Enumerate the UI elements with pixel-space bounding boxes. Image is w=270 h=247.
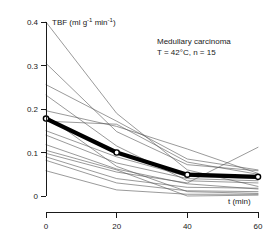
y-tick-label: 0.2 (27, 105, 39, 114)
y-tick-label: 0.1 (27, 149, 39, 158)
individual-subject-series-group (46, 22, 258, 196)
mean-data-point (114, 150, 119, 155)
y-tick-label: 0 (34, 192, 39, 201)
y-axis-ticks: 00.10.20.30.4 (27, 18, 46, 201)
y-axis-title-mid: min (92, 18, 107, 27)
y-axis-title-prefix: TBF (ml g (52, 18, 87, 27)
chart-figure: 00.10.20.30.4 0204060 TBF (ml g-1 min-1)… (0, 0, 270, 247)
y-tick-label: 0.4 (27, 18, 39, 27)
chart-plot-area: 00.10.20.30.4 0204060 TBF (ml g-1 min-1)… (0, 0, 270, 247)
subject-series-line (46, 63, 258, 170)
y-axis-title-suffix: ) (113, 18, 116, 27)
subject-series-line (46, 150, 258, 196)
x-tick-label: 60 (254, 222, 263, 231)
x-tick-label: 40 (183, 222, 192, 231)
mean-data-point (185, 172, 190, 177)
annotation-line-2: T = 42°C, n = 15 (157, 48, 216, 57)
x-axis-title: t (min) (228, 197, 251, 206)
mean-data-point (255, 174, 260, 179)
subject-series-line (46, 85, 258, 170)
x-tick-label: 20 (112, 222, 121, 231)
y-tick-label: 0.3 (27, 62, 39, 71)
x-tick-label: 0 (44, 222, 49, 231)
y-axis-title: TBF (ml g-1 min-1) (52, 17, 116, 27)
subject-series-line (46, 95, 258, 183)
annotation-line-1: Medullary carcinoma (157, 37, 231, 46)
x-axis-ticks: 0204060 (44, 212, 263, 231)
